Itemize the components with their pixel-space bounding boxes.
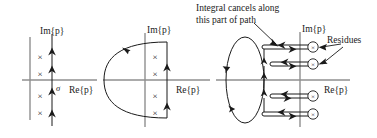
residue-branch: × <box>262 108 318 120</box>
pole-marker: × <box>152 91 157 101</box>
residues-leader-1-arrowhead <box>319 44 327 51</box>
residues-leader-2-arrowhead <box>318 58 327 64</box>
residue-branch: × <box>270 90 318 102</box>
residue-branch: × <box>262 41 318 53</box>
branch-left-cap <box>262 112 264 116</box>
pole-marker: × <box>311 111 315 119</box>
im-axis-label-left: Im{p} <box>40 26 64 36</box>
pole-marker: × <box>152 52 157 62</box>
pole-marker: × <box>311 93 315 101</box>
pole-marker: × <box>311 61 315 69</box>
pole-marker: × <box>152 69 157 79</box>
cancel-note-line-2: this part of path <box>196 15 256 25</box>
im-axis-label-right: Im{p} <box>302 24 326 34</box>
cancel-note-line-1: Integral cancels along <box>196 3 280 13</box>
residues-label: Residues <box>327 35 362 45</box>
pole-marker: × <box>37 69 42 79</box>
pole-marker: × <box>37 108 42 118</box>
figure-canvas: × × × × Im{p} Re{p} σ × × <box>0 0 377 138</box>
residue-branch: × <box>270 58 318 70</box>
panel-middle: × × × × Im{p} Re{p} <box>103 25 210 127</box>
re-axis-label-right: Re{p} <box>324 85 348 95</box>
pole-marker: × <box>37 52 42 62</box>
branch-left-cap <box>262 45 264 49</box>
pole-marker: × <box>37 91 42 101</box>
branch-left-cap <box>270 94 272 98</box>
sigma-label: σ <box>56 83 61 93</box>
complex-plane-contour-figure: × × × × Im{p} Re{p} σ × × <box>0 0 377 138</box>
pole-marker: × <box>152 108 157 118</box>
panel-right: × × × <box>196 3 362 127</box>
re-axis-label-middle: Re{p} <box>176 85 200 95</box>
panel-left: × × × × Im{p} Re{p} σ <box>22 26 97 126</box>
im-axis-label-middle: Im{p} <box>147 25 171 35</box>
pole-marker: × <box>311 44 315 52</box>
re-axis-label-left: Re{p} <box>69 85 93 95</box>
branch-left-cap <box>270 62 272 66</box>
